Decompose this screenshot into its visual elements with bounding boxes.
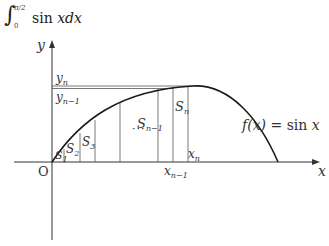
xn-1-label: xn−1 <box>164 165 188 180</box>
s3-sub: 3 <box>90 142 95 151</box>
origin-label: O <box>38 165 49 178</box>
sn-base: S <box>175 99 184 114</box>
yn-1-label: yn−1 <box>56 91 80 106</box>
sn-1-sub: n−1 <box>146 124 163 133</box>
sn-1-label: Sn−1 <box>137 117 163 133</box>
y-axis-label: y <box>37 38 45 52</box>
x-axis-label: x <box>318 164 326 178</box>
sn-label: Sn <box>175 100 189 116</box>
yn-1-base: y <box>56 90 63 104</box>
yn-sub: n <box>63 78 68 87</box>
xn-base: x <box>188 147 195 161</box>
function-rhs-fn: sin <box>287 117 308 133</box>
sn-1-base: S <box>137 116 146 131</box>
function-lhs: f(x) = <box>242 117 287 133</box>
xn-label: xn <box>188 148 200 163</box>
s3-base: S <box>82 135 90 149</box>
y-axis-arrow-icon <box>49 40 55 48</box>
s1-base: S <box>55 149 63 162</box>
xn-1-sub: n−1 <box>171 171 188 180</box>
sn-sub: n <box>184 107 189 116</box>
s2-label: S2 <box>66 143 79 158</box>
s2-sub: 2 <box>74 149 79 158</box>
yn-1-sub: n−1 <box>63 97 80 106</box>
function-rhs-var: x <box>312 117 320 133</box>
xn-sub: n <box>195 154 200 163</box>
s3-label: S3 <box>82 136 95 151</box>
s2-base: S <box>66 142 74 156</box>
yn-label: yn <box>56 72 68 87</box>
xn-1-base: x <box>164 164 171 178</box>
function-label: f(x) = sin x <box>242 118 320 132</box>
yn-base: y <box>56 71 63 85</box>
